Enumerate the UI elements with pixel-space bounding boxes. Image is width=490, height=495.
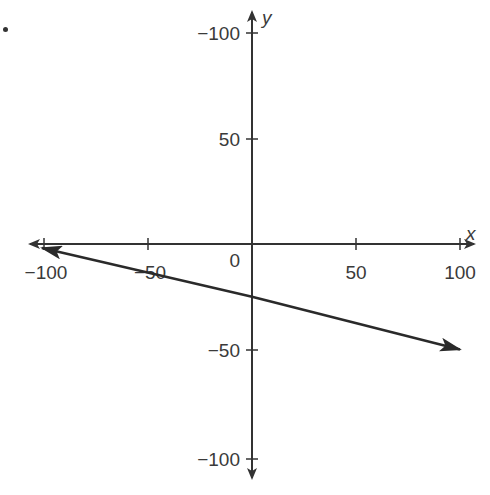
x-tick-label: 100 (444, 262, 476, 283)
y-axis: −100 50 −50 −100 y (197, 7, 273, 478)
origin-label: 0 (229, 250, 240, 271)
x-tick-label: 50 (345, 262, 366, 283)
y-axis-label: y (260, 7, 273, 28)
y-tick-label: −100 (197, 449, 240, 470)
x-tick-label: −100 (25, 262, 68, 283)
coordinate-plane: −100 −50 50 100 x −100 50 −50 −100 y 0 (0, 0, 490, 495)
y-tick-label: 50 (219, 129, 240, 150)
y-tick-label: −100 (197, 23, 240, 44)
x-axis: −100 −50 50 100 x (25, 223, 477, 283)
x-axis-label: x (465, 223, 477, 244)
y-tick-label: −50 (208, 340, 240, 361)
